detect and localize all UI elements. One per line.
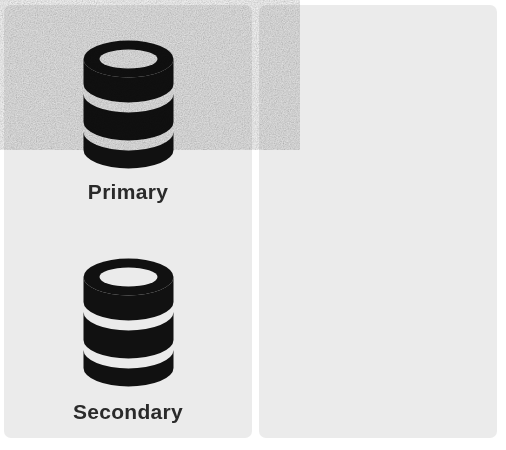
database-cylinder-icon [81, 38, 176, 169]
primary-panel: Primary Secondary [4, 5, 252, 438]
node-primary[interactable]: Primary [32, 38, 224, 204]
node-label-secondary: Secondary [32, 400, 224, 424]
diagram-canvas: Primary Secondary Secondary [0, 0, 506, 450]
database-cylinder-icon [81, 256, 176, 387]
secondary-priority-panel: Secondary (Priority=0) [259, 5, 497, 438]
node-label-primary: Primary [32, 180, 224, 204]
node-secondary[interactable]: Secondary [32, 256, 224, 424]
